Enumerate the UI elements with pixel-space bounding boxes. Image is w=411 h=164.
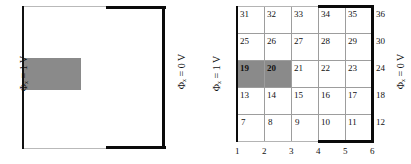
node-label: 18 (376, 91, 385, 100)
node-label: 16 (321, 91, 330, 100)
node-label: 17 (348, 91, 357, 100)
node-label: 22 (321, 64, 330, 73)
node-label: 12 (376, 118, 385, 127)
node-label: 14 (267, 91, 276, 100)
node-label-highlighted: 20 (267, 64, 276, 73)
left-panel-left-potential-label: Φₓ = 1 V (18, 39, 29, 109)
node-label: 30 (376, 37, 385, 46)
grid-line-horizontal (237, 114, 373, 115)
node-label: 36 (376, 10, 385, 19)
left-panel-continuous-domain: Φₓ = 1 V Φₓ = 0 V (0, 0, 205, 164)
node-label: 13 (240, 91, 249, 100)
right-panel-right-potential-label: Φₓ = 0 V (395, 37, 406, 107)
grid-line-vertical (345, 6, 346, 142)
axis-tick-label: 6 (370, 147, 375, 156)
grid-line-vertical (291, 6, 292, 142)
boundary-top-thin (22, 6, 106, 7)
grid-boundary-top-thick (318, 5, 374, 8)
grid-boundary-left (236, 6, 238, 142)
grid-line-vertical (264, 6, 265, 142)
node-label-highlighted: 19 (240, 64, 249, 73)
node-label: 8 (268, 118, 273, 127)
right-panel-discretized-grid: 31 32 33 34 35 36 25 26 27 28 29 30 19 2… (205, 0, 411, 164)
node-label: 11 (348, 118, 357, 127)
node-label: 21 (294, 64, 303, 73)
right-panel-left-potential-label: Φₓ = 1 V (211, 39, 222, 109)
grid-boundary-top-thin (237, 6, 318, 7)
node-label: 29 (348, 37, 357, 46)
node-label: 15 (294, 91, 303, 100)
node-label: 24 (376, 64, 385, 73)
node-label: 27 (294, 37, 303, 46)
node-label: 23 (348, 64, 357, 73)
node-label: 31 (240, 10, 249, 19)
node-label: 35 (348, 10, 357, 19)
grid-boundary-bottom-thick (318, 140, 374, 143)
domain-square (22, 6, 164, 149)
left-panel-right-potential-label: Φₓ = 0 V (176, 37, 187, 107)
node-label: 33 (294, 10, 303, 19)
grid-line-horizontal (237, 87, 373, 88)
figure-root: Φₓ = 1 V Φₓ = 0 V (0, 0, 411, 164)
node-label: 10 (321, 118, 330, 127)
grid-boundary-right (371, 6, 374, 142)
node-label: 28 (321, 37, 330, 46)
boundary-top-thick (106, 6, 166, 9)
axis-tick-label: 1 (235, 147, 240, 156)
node-label: 25 (240, 37, 249, 46)
axis-tick-label: 2 (262, 147, 267, 156)
node-label: 9 (295, 118, 300, 127)
grid-boundary-bottom-thin (237, 141, 318, 142)
grid-line-horizontal (237, 60, 373, 61)
shaded-block (22, 58, 81, 90)
axis-tick-label: 3 (289, 147, 294, 156)
axis-tick-label: 4 (316, 147, 321, 156)
node-label: 7 (241, 118, 246, 127)
boundary-right (162, 6, 165, 149)
grid-line-horizontal (237, 33, 373, 34)
node-grid: 31 32 33 34 35 36 25 26 27 28 29 30 19 2… (237, 6, 373, 142)
axis-tick-label: 5 (343, 147, 348, 156)
node-label: 34 (321, 10, 330, 19)
node-label: 32 (267, 10, 276, 19)
boundary-bottom-thick (106, 146, 166, 149)
grid-line-vertical (318, 6, 319, 142)
boundary-bottom-thin (22, 148, 106, 149)
node-label: 26 (267, 37, 276, 46)
